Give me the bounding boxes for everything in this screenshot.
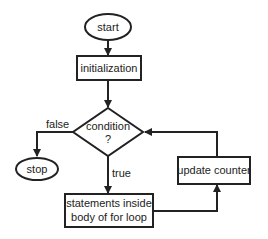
loop-body-label-line1: statements inside	[66, 197, 152, 209]
edge-body-update	[153, 185, 217, 211]
edge-update-condition	[145, 132, 217, 157]
stop-label: stop	[27, 163, 48, 175]
true-label: true	[112, 167, 131, 179]
loop-body-label-line2: body of for loop	[71, 211, 147, 223]
condition-question-mark: ?	[105, 133, 111, 145]
false-label: false	[46, 118, 69, 130]
update-counter-label: update counter	[177, 164, 251, 176]
condition-label: condition	[86, 120, 130, 132]
stop-node: stop	[16, 158, 58, 180]
loop-body-node: statements inside body of for loop	[65, 194, 153, 227]
initialization-node: initialization	[77, 56, 141, 80]
start-label: start	[97, 21, 118, 33]
initialization-label: initialization	[81, 62, 138, 74]
edge-condition-stop	[37, 132, 73, 156]
flowchart-canvas: start initialization condition ? false s…	[0, 0, 268, 239]
condition-node: condition ?	[73, 108, 143, 156]
update-counter-node: update counter	[177, 157, 251, 184]
start-node: start	[85, 14, 131, 40]
